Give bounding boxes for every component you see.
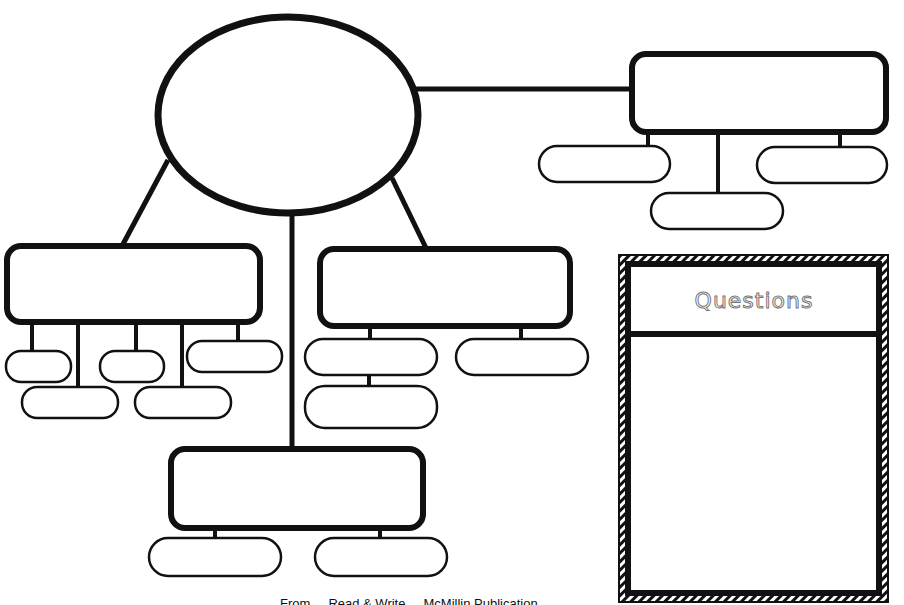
detail-pill-left-3[interactable]	[100, 351, 164, 382]
connector-center-middle	[392, 178, 426, 248]
branch-box-left[interactable]	[7, 246, 260, 322]
connector-center-left	[122, 160, 168, 246]
detail-pill-bottom-2[interactable]	[315, 538, 447, 576]
detail-pill-topright-3[interactable]	[757, 147, 887, 183]
detail-pill-middle-2[interactable]	[456, 339, 588, 375]
detail-pill-bottom-1[interactable]	[149, 538, 281, 576]
detail-pill-left-2[interactable]	[22, 387, 118, 418]
detail-pill-topright-2[interactable]	[651, 193, 783, 229]
branch-box-middle[interactable]	[320, 249, 570, 326]
detail-pill-middle-3[interactable]	[305, 386, 437, 428]
detail-pill-left-4[interactable]	[135, 387, 231, 418]
branch-box-top-right[interactable]	[632, 54, 886, 132]
source-caption: From ... Read & Write ... McMillin Publi…	[280, 595, 620, 605]
detail-pill-middle-1[interactable]	[305, 339, 437, 375]
questions-title: Questions	[631, 268, 877, 332]
central-topic-ellipse[interactable]	[158, 17, 418, 213]
questions-body-area[interactable]	[631, 338, 877, 588]
branch-box-bottom[interactable]	[171, 449, 423, 528]
detail-pill-left-1[interactable]	[6, 351, 71, 382]
detail-pill-left-5[interactable]	[187, 341, 282, 372]
detail-pill-topright-1[interactable]	[539, 146, 670, 182]
